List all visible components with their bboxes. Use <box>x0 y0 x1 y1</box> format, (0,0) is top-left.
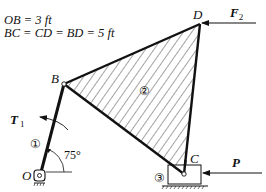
pin-b <box>62 82 66 86</box>
angle-arc <box>47 149 65 172</box>
angle-label: 75° <box>64 148 81 162</box>
ground-slider <box>162 186 208 189</box>
member-3-label: ③ <box>154 171 165 185</box>
torque-label: T1 <box>10 112 24 129</box>
support-o <box>34 170 45 186</box>
member-1-label: ① <box>30 137 41 151</box>
mechanism-diagram: O 75° T1 ① ② ③ B D F2 C P <box>0 0 266 192</box>
label-d: D <box>192 7 203 22</box>
force-f2-label: F2 <box>229 5 243 22</box>
pin-c <box>182 172 186 176</box>
link-ob <box>40 84 64 176</box>
label-o: O <box>22 168 32 183</box>
force-p-label: P <box>232 155 241 170</box>
label-c: C <box>190 151 199 166</box>
label-b: B <box>51 71 59 86</box>
member-2-label: ② <box>139 84 150 98</box>
